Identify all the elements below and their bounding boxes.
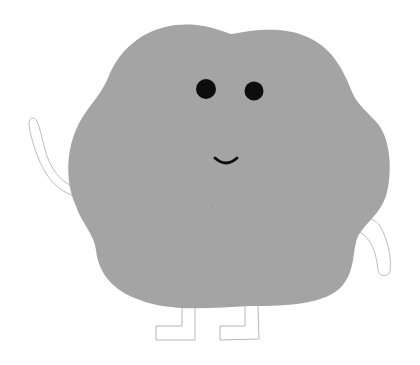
body bbox=[68, 24, 390, 308]
body-speck bbox=[211, 205, 213, 207]
left-arm bbox=[29, 118, 76, 196]
left-eye bbox=[196, 79, 216, 99]
blob-character bbox=[0, 0, 420, 365]
illustration-canvas bbox=[0, 0, 420, 365]
left-leg bbox=[156, 306, 195, 340]
right-leg bbox=[220, 305, 259, 340]
right-arm bbox=[360, 219, 391, 275]
right-eye bbox=[245, 82, 264, 101]
